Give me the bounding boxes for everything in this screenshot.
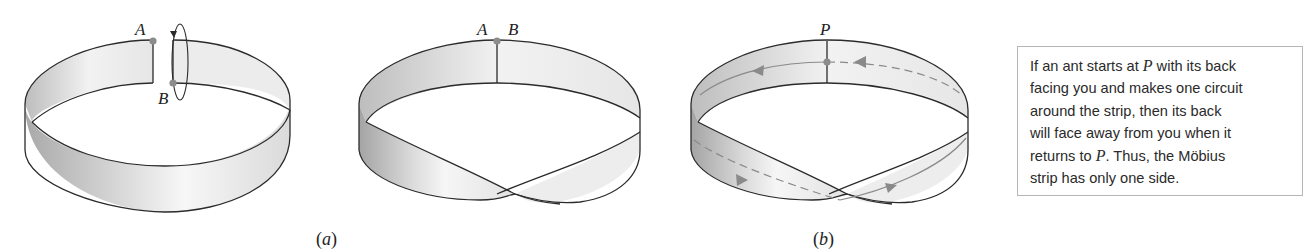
caption-a: (a) bbox=[316, 230, 337, 248]
strip-1-cut-band bbox=[25, 24, 290, 212]
note-line-5: returns to P. Thus, the Möbius bbox=[1030, 145, 1292, 167]
label-a-strip2: A bbox=[477, 21, 487, 38]
note-line-2: facing you and makes one circuit bbox=[1030, 77, 1292, 99]
note-line-6: strip has only one side. bbox=[1030, 167, 1292, 189]
mobius-strip-figure: A B A B P (a) (b) If an ant starts at P … bbox=[0, 0, 1316, 252]
label-p: P bbox=[820, 21, 830, 38]
explanation-box: If an ant starts at P with its back faci… bbox=[1017, 46, 1303, 196]
point-a-strip1 bbox=[149, 37, 156, 44]
label-a-strip1: A bbox=[135, 21, 145, 38]
label-b-strip2: B bbox=[508, 21, 518, 38]
note-line-4: will face away from you when it bbox=[1030, 122, 1292, 144]
caption-b: (b) bbox=[813, 230, 834, 248]
point-p bbox=[823, 58, 830, 65]
note-line-3: around the strip, then its back bbox=[1030, 100, 1292, 122]
strip-2-twisted-band bbox=[359, 37, 640, 204]
note-line-1: If an ant starts at P with its back bbox=[1030, 55, 1292, 77]
strip-3-mobius-band bbox=[691, 40, 968, 204]
label-b-strip1: B bbox=[158, 90, 168, 107]
point-ab-strip2 bbox=[493, 37, 500, 44]
point-b-strip1 bbox=[169, 79, 176, 86]
